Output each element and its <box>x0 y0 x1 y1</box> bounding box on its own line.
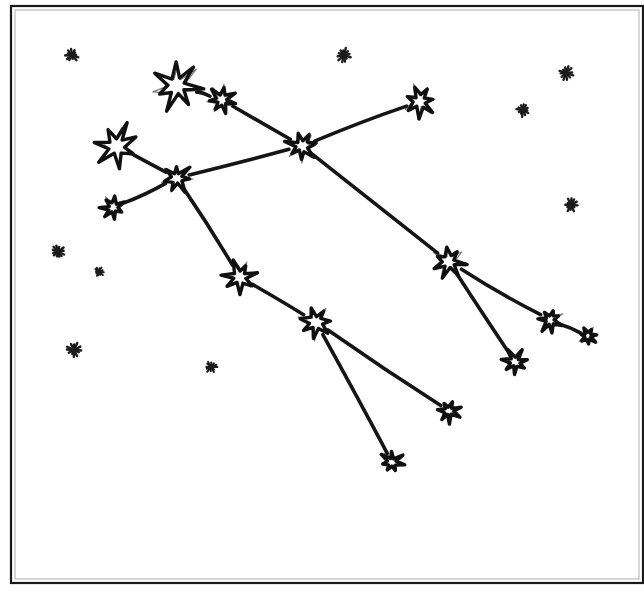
background-star-core <box>521 108 524 111</box>
background-star-core <box>72 348 75 351</box>
background-star-core <box>564 71 567 74</box>
canvas-background <box>0 0 644 592</box>
background-star-core <box>56 250 59 253</box>
background-star-core <box>342 53 345 56</box>
constellation-figure <box>0 0 644 592</box>
background-star-core <box>210 366 213 369</box>
background-star-core <box>98 271 101 274</box>
bg-star-6 <box>53 246 64 257</box>
illustration-canvas <box>0 0 644 592</box>
background-star-core <box>70 53 73 56</box>
background-star-core <box>569 203 572 206</box>
